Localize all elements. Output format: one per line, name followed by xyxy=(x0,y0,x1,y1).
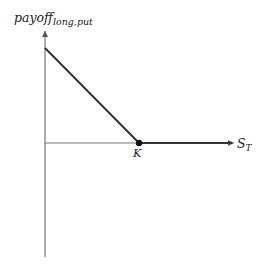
x-axis-label: ST xyxy=(237,136,253,153)
payoff-line xyxy=(45,48,232,143)
y-axis-label: payofflong,put xyxy=(14,10,93,27)
strike-label: K xyxy=(132,146,143,160)
payoff-diagram: payofflong,put ST K xyxy=(0,0,263,272)
